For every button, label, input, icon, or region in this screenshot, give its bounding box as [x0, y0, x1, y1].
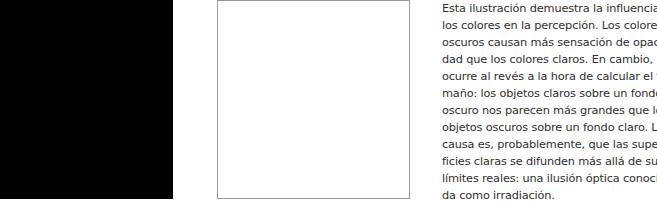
- caption-line: los colores en la percepción. Los colore…: [442, 17, 653, 34]
- caption-line: Esta ilustración demuestra la influencia…: [442, 0, 653, 17]
- caption-line: objetos oscuros sobre un fondo claro. La: [442, 119, 653, 136]
- caption-line: ficies claras se difunden más allá de su…: [442, 153, 653, 170]
- caption-line: oscuros causan más sensación de opaci-: [442, 34, 653, 51]
- caption-line: maño: los objetos claros sobre un fondo: [442, 85, 653, 102]
- caption-line: da como irradiación.: [442, 187, 653, 204]
- caption-line: oscuro nos parecen más grandes que los: [442, 102, 653, 119]
- caption-text: Esta ilustración demuestra la influencia…: [442, 0, 653, 204]
- light-square-illustration: [217, 0, 410, 199]
- caption-line: ocurre al revés a la hora de calcular el…: [442, 68, 653, 85]
- caption-line: causa es, probablemente, que las super-: [442, 136, 653, 153]
- dark-square-illustration: [0, 0, 173, 199]
- caption-line: dad que los colores claros. En cambio,: [442, 51, 653, 68]
- caption-line: límites reales: una ilusión óptica conoc…: [442, 170, 653, 187]
